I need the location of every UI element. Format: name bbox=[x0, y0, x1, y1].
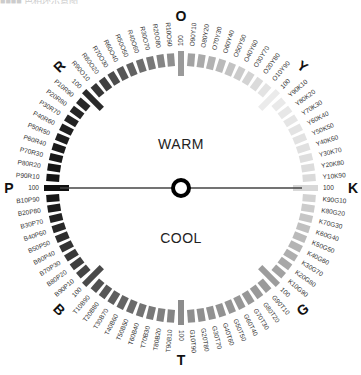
segment-label: K90G10 bbox=[322, 195, 347, 204]
segment-label: B10P90 bbox=[16, 195, 40, 204]
hue-label-P: P bbox=[4, 180, 13, 196]
center-ring-icon bbox=[173, 180, 189, 196]
segment-label: 100 bbox=[71, 77, 84, 90]
hue-segment-GG40T60 bbox=[215, 303, 226, 318]
segment-label: 100 bbox=[28, 184, 39, 191]
segment-label: Y20K80 bbox=[321, 158, 345, 169]
hue-segment-TT40B60 bbox=[117, 295, 129, 310]
hue-wheel-diagram: 100O90Y10O80Y20O70Y30O60Y40O50Y50O40Y60O… bbox=[0, 0, 361, 375]
hue-segment-PP70R30 bbox=[49, 153, 63, 163]
hue-segment-GG60T40 bbox=[233, 295, 245, 310]
hue-segment-YY60K40 bbox=[288, 124, 303, 136]
segment-label: T90B10 bbox=[164, 329, 173, 353]
segment-label: 100 bbox=[70, 285, 83, 298]
hue-segment-T100 bbox=[178, 300, 184, 325]
segment-label: O90Y10 bbox=[188, 22, 197, 47]
segment-label: G30T70 bbox=[211, 325, 223, 350]
hue-segment-TT50B50 bbox=[126, 299, 138, 314]
segment-label: 100 bbox=[279, 286, 292, 299]
segment-label: 100 bbox=[279, 77, 292, 90]
hue-segment-TT60B40 bbox=[136, 303, 147, 318]
segment-label: P90R10 bbox=[16, 171, 40, 180]
hue-segment-OO40Y60 bbox=[233, 66, 245, 81]
segment-label: K80G20 bbox=[321, 206, 346, 217]
hue-label-B: B bbox=[50, 300, 68, 318]
hue-segment-RR10O90 bbox=[167, 53, 175, 67]
hue-segment-RR40O60 bbox=[136, 58, 147, 73]
hue-segment-PP90R10 bbox=[46, 174, 60, 182]
hue-segment-RR50O50 bbox=[126, 62, 138, 77]
segment-label: O70Y30 bbox=[210, 25, 222, 50]
segment-label: Y10K90 bbox=[322, 171, 346, 180]
segment-label: G40T60 bbox=[222, 322, 236, 347]
hue-segment-KK50G50 bbox=[292, 231, 307, 243]
segment-label: B20P80 bbox=[17, 206, 41, 217]
hue-segment-OO90Y10 bbox=[187, 53, 195, 67]
segment-label: R20O80 bbox=[152, 23, 163, 48]
segment-label: Y40K60 bbox=[315, 133, 340, 147]
hue-segment-RR60O40 bbox=[117, 66, 129, 81]
hue-segment-OO70Y30 bbox=[206, 56, 216, 70]
hue-segment-TT80B20 bbox=[156, 308, 165, 322]
hue-segment-GG20T80 bbox=[197, 308, 206, 322]
hue-segment-YY50K50 bbox=[292, 133, 307, 145]
hue-label-G: G bbox=[294, 300, 312, 319]
hue-label-R: R bbox=[50, 57, 68, 75]
segment-label: G20T80 bbox=[200, 328, 211, 353]
hue-segment-YY20K80 bbox=[301, 163, 315, 172]
hue-segment-PP50R50 bbox=[55, 133, 70, 145]
hue-segment-OO50Y50 bbox=[224, 62, 236, 77]
hue-segment-KK80G20 bbox=[301, 204, 315, 213]
hue-segment-BB10P90 bbox=[46, 194, 60, 202]
hue-segment-YY40K60 bbox=[296, 143, 311, 154]
hue-label-K: K bbox=[348, 180, 358, 196]
hue-segment-YY30K70 bbox=[299, 153, 313, 163]
hue-segment-O100 bbox=[178, 51, 184, 76]
hue-segment-BB20P80 bbox=[47, 204, 61, 213]
hue-segment-BB50P50 bbox=[55, 231, 70, 243]
hue-segment-RR30O70 bbox=[146, 56, 156, 70]
hue-segment-KK40G60 bbox=[288, 240, 303, 252]
hue-segment-KK90G10 bbox=[302, 194, 316, 202]
hue-segment-BB30P70 bbox=[49, 213, 63, 223]
hue-label-Y: Y bbox=[294, 57, 311, 76]
hue-segment-GG50T50 bbox=[224, 299, 236, 314]
warm-label: WARM bbox=[158, 136, 204, 152]
segment-label: Y30K70 bbox=[318, 146, 343, 158]
hue-label-O: O bbox=[176, 8, 187, 24]
segment-label: R30O70 bbox=[139, 25, 152, 51]
hue-segment-PP80R20 bbox=[47, 163, 61, 172]
segment-label: P60R40 bbox=[23, 133, 48, 147]
hue-segment-KK70G30 bbox=[299, 213, 313, 223]
segment-label: T60B40 bbox=[126, 322, 140, 346]
hue-label-T: T bbox=[177, 352, 186, 368]
hue-segment-YY10K90 bbox=[302, 174, 316, 182]
hue-segment-TT90B10 bbox=[167, 309, 175, 323]
segment-label: T70B30 bbox=[139, 325, 151, 349]
hue-segment-PP60R40 bbox=[51, 143, 66, 154]
segment-label: T80B20 bbox=[151, 327, 162, 351]
segment-label: K70G30 bbox=[318, 217, 343, 229]
hue-segment-GG30T70 bbox=[206, 306, 216, 320]
segment-label: O80Y20 bbox=[199, 23, 210, 48]
hue-segment-BB40P60 bbox=[51, 222, 66, 233]
segment-label: 100 bbox=[177, 35, 184, 46]
hue-segment-TT70B30 bbox=[146, 306, 156, 320]
hue-segment-RR20O80 bbox=[156, 54, 165, 68]
segment-label: P70R30 bbox=[19, 146, 44, 158]
hue-segment-OO60Y40 bbox=[215, 58, 226, 73]
segment-label: B30P70 bbox=[20, 217, 45, 229]
segment-label: 100 bbox=[323, 184, 334, 191]
hue-segment-PP40R60 bbox=[59, 124, 74, 136]
segment-label: G10T90 bbox=[189, 329, 198, 353]
hue-segment-OO80Y20 bbox=[197, 54, 206, 68]
segment-label: R10O90 bbox=[165, 22, 174, 47]
cool-label: COOL bbox=[160, 230, 202, 246]
segment-label: P80R20 bbox=[17, 158, 42, 169]
hue-segment-GG10T90 bbox=[187, 309, 195, 323]
hue-segment-BB60P40 bbox=[59, 240, 74, 252]
segment-label: 100 bbox=[178, 330, 185, 341]
hue-segment-KK60G40 bbox=[296, 222, 311, 233]
